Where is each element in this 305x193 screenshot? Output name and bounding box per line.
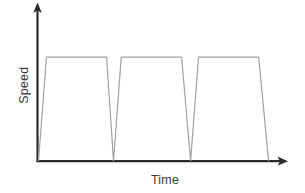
- y-axis-label: Speed: [18, 55, 31, 115]
- x-axis-label: Time: [135, 174, 195, 187]
- chart-canvas: [0, 0, 305, 193]
- speed-curve: [38, 57, 268, 161]
- speed-time-chart: Speed Time: [0, 0, 305, 193]
